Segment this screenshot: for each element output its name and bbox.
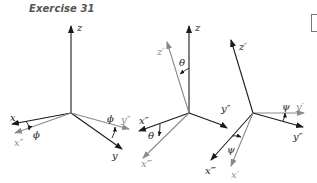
y-double-prime-from-panel2 <box>222 125 227 128</box>
label-theta-bottom: θ <box>148 130 154 141</box>
label-z: z <box>194 22 201 33</box>
y-double-prime-axis <box>189 113 222 125</box>
x-prime-axis <box>231 113 253 166</box>
label-z-prime: z′ <box>156 46 165 57</box>
label-z-prime: z′ <box>238 41 247 52</box>
label-psi-bottom: ψ <box>227 144 235 155</box>
theta-arc-bottom <box>159 124 160 136</box>
label-y-double-prime: y″ <box>292 131 303 142</box>
x-axis <box>12 113 71 124</box>
panel-theta: z z′ θ x″ θ x‴ <box>139 22 222 169</box>
psi-arc-bottom <box>232 136 241 137</box>
panel-psi: z′ ψ y′ y″ y″ ψ x‴ x′ <box>205 40 305 180</box>
label-theta-top: θ <box>179 57 185 68</box>
label-y-double-prime-mid: y″ <box>220 103 231 114</box>
label-y-prime: y′ <box>295 101 305 112</box>
label-z: z <box>76 22 83 33</box>
label-x: x <box>10 112 16 123</box>
label-phi-left: ϕ <box>33 129 40 140</box>
panel-phi: z x x″ ϕ ϕ y″ y <box>10 22 131 161</box>
x-double-prime-axis <box>15 113 71 133</box>
y-double-prime-axis <box>253 113 303 127</box>
label-x-double-prime: x″ <box>14 137 24 148</box>
label-phi-right: ϕ <box>107 113 114 124</box>
phi-arc-right <box>112 127 115 138</box>
label-y-double-prime: y″ <box>120 114 131 125</box>
label-x-triple-prime: x‴ <box>141 158 153 169</box>
label-x-triple-prime: x‴ <box>205 165 217 176</box>
euler-rotation-diagram: z x x″ ϕ ϕ y″ y z z′ θ x″ θ x‴ z′ ψ y′ <box>0 0 317 183</box>
label-x-prime: x′ <box>231 169 240 180</box>
label-y: y <box>111 150 118 161</box>
z-prime-axis <box>167 42 189 113</box>
label-x-double-prime: x″ <box>139 115 149 126</box>
psi-arc-right <box>283 113 285 121</box>
theta-arc-top <box>180 68 189 74</box>
label-psi-right: ψ <box>282 101 290 112</box>
